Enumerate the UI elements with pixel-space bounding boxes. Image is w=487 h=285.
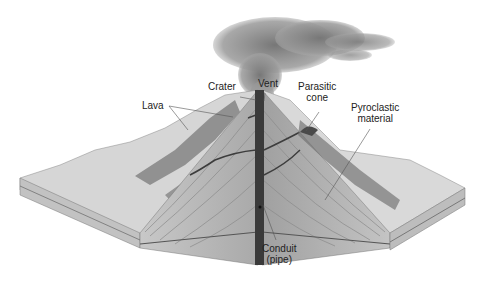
volcano-diagram: Crater Vent Parasitic cone Lava Pyroclas… (0, 0, 487, 285)
label-conduit-pipe: Conduit (pipe) (262, 243, 296, 265)
label-crater: Crater (208, 81, 236, 92)
label-parasitic-cone: Parasitic cone (298, 81, 336, 103)
volcano-illustration (0, 0, 487, 285)
label-vent: Vent (258, 78, 278, 89)
conduit-pipe (255, 90, 264, 265)
label-lava: Lava (142, 100, 164, 111)
label-pyroclastic-material: Pyroclastic material (351, 102, 399, 124)
